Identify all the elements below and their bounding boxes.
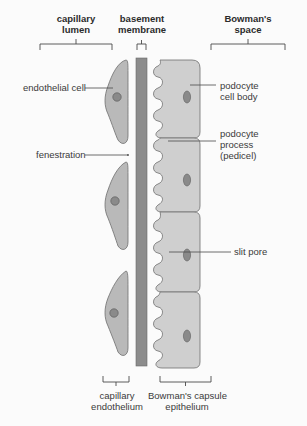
diagram-canvas: capillary lumen basement membrane Bowman…: [0, 0, 307, 426]
label-endothelial-cell: endothelial cell: [23, 82, 86, 93]
bracket-capillary-endothelium: [103, 376, 129, 386]
label-capillary-endothelium: capillary endothelium: [86, 390, 148, 412]
label-slit-pore: slit pore: [234, 246, 267, 257]
podocyte-2: [154, 138, 201, 212]
endothelial-cell-1: [105, 60, 128, 143]
basement-membrane: [136, 58, 147, 366]
bracket-capillary-lumen: [40, 39, 112, 50]
endothelial-cell-2: [105, 162, 128, 249]
label-bowmans-space: Bowman's space: [220, 13, 276, 35]
label-podocyte-cell-body: podocyte cell body: [220, 80, 259, 102]
bracket-basement-membrane: [137, 40, 146, 50]
podocyte-4: [154, 292, 201, 368]
bracket-bowmans-capsule-epithelium: [160, 376, 211, 386]
endothelial-cell-3: [105, 271, 128, 355]
glomerular-barrier-illustration: [0, 0, 307, 426]
label-bowmans-capsule-epithelium: Bowman's capsule epithelium: [148, 390, 226, 412]
bracket-bowmans-space: [211, 39, 285, 50]
label-basement-membrane: basement membrane: [114, 13, 170, 35]
label-podocyte-process: podocyte process (pedicel): [220, 128, 259, 161]
podocyte-1: [154, 60, 201, 138]
label-capillary-lumen: capillary lumen: [48, 13, 104, 35]
label-fenestration: fenestration: [36, 149, 86, 160]
